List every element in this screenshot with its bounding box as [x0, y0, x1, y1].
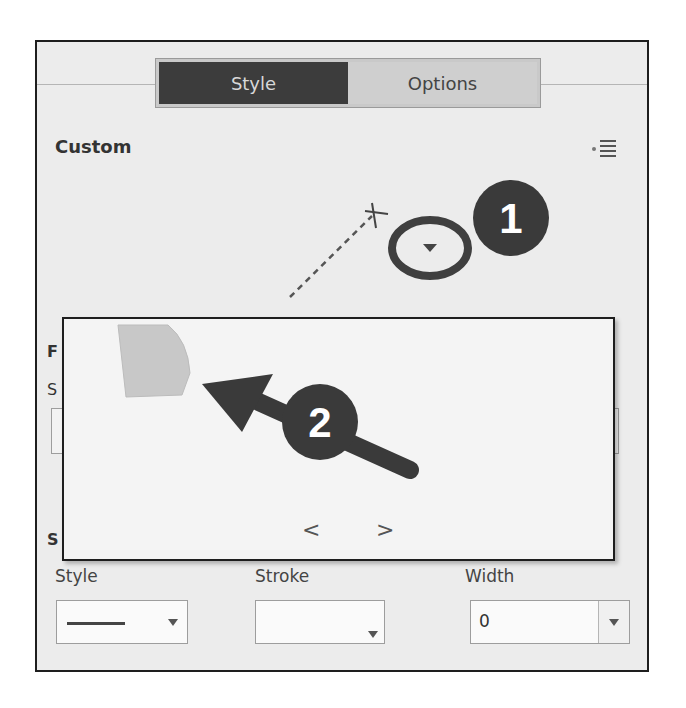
shape-thumbnail[interactable]	[116, 323, 194, 399]
prev-page-button[interactable]: <	[302, 517, 320, 542]
width-input[interactable]: 0	[470, 600, 630, 644]
occluded-label: S	[47, 380, 57, 399]
solid-line-preview	[67, 622, 125, 625]
chevron-down-icon	[368, 631, 378, 638]
stroke-color-dropdown[interactable]	[255, 600, 385, 644]
tab-style[interactable]: Style	[159, 62, 348, 104]
width-label: Width	[465, 566, 514, 586]
occluded-label: F	[47, 342, 58, 361]
style-label: Style	[55, 566, 98, 586]
stroke-label: Stroke	[255, 566, 309, 586]
chevron-down-icon	[609, 619, 619, 626]
occluded-label: S	[47, 530, 59, 549]
shape-picker-popup: < >	[62, 317, 615, 561]
line-style-dropdown[interactable]	[56, 600, 188, 644]
panel-menu-icon[interactable]	[592, 138, 620, 160]
tab-bar: Style Options	[155, 58, 541, 108]
next-page-button[interactable]: >	[376, 517, 394, 542]
width-value: 0	[479, 611, 490, 631]
menu-bar	[600, 140, 616, 142]
menu-bar	[600, 145, 616, 147]
chevron-down-icon	[168, 619, 178, 626]
menu-bar	[600, 155, 616, 157]
section-title: Custom	[55, 136, 131, 157]
menu-bar	[600, 150, 616, 152]
tab-options[interactable]: Options	[348, 62, 537, 104]
menu-dot	[592, 147, 596, 151]
width-dropdown-button[interactable]	[598, 601, 629, 643]
